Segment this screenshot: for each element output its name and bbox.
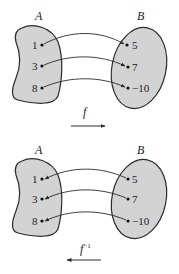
range-value: −10: [132, 82, 150, 94]
set-b-label: B: [137, 143, 145, 157]
range-value: 5: [132, 39, 138, 51]
set-b-ellipse: [104, 22, 174, 113]
diagram-f-inverse: A B 1 3 8 5 7 −10 f−1: [13, 143, 174, 260]
domain-value: 8: [32, 215, 38, 227]
set-a-label: A: [34, 9, 43, 23]
function-diagram: A B 1 3 8 5 7 −10 f A B: [0, 0, 179, 274]
function-label: f−1: [80, 242, 91, 256]
set-b-ellipse: [104, 154, 173, 243]
function-label: f: [83, 105, 88, 119]
domain-value: 1: [32, 173, 38, 185]
domain-value: 3: [32, 60, 38, 72]
range-value: −10: [132, 215, 150, 227]
range-value: 7: [132, 61, 138, 73]
domain-value: 1: [32, 39, 38, 51]
diagram-f: A B 1 3 8 5 7 −10 f: [13, 9, 174, 126]
range-value: 7: [132, 193, 138, 205]
domain-value: 3: [32, 193, 38, 205]
domain-value: 8: [32, 82, 38, 94]
set-a-label: A: [34, 143, 43, 157]
set-b-label: B: [137, 9, 145, 23]
range-value: 5: [132, 173, 138, 185]
